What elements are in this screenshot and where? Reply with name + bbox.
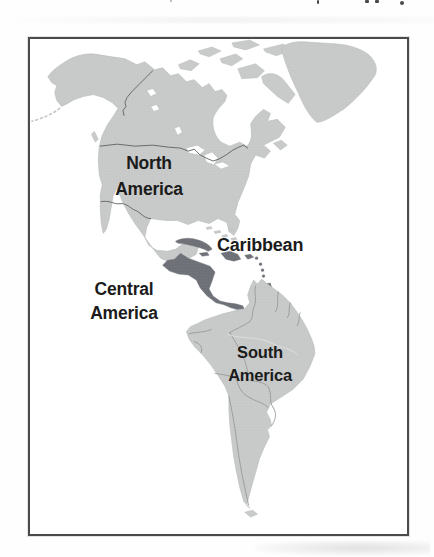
jamaica [199, 252, 209, 256]
vancouver-island [91, 131, 98, 142]
tierra-del-fuego [245, 510, 258, 517]
page-text-remnant [365, 0, 369, 3]
label-north-america: North America [115, 150, 183, 202]
page-text-remnant [375, 0, 379, 3]
americas-map [30, 39, 407, 534]
newfoundland-island [273, 140, 287, 150]
label-central-america-line2: America [90, 301, 158, 325]
page-text-remnant [170, 0, 172, 2]
label-central-america-line1: Central [90, 277, 158, 301]
label-south-america: South America [228, 341, 292, 387]
label-south-america-line2: America [228, 364, 292, 387]
greenland-landmass [281, 42, 376, 123]
label-north-america-line2: America [115, 176, 183, 202]
page-text-remnant [317, 0, 319, 4]
page-text-remnant [400, 1, 404, 5]
lesser-antilles [255, 257, 265, 284]
label-south-america-line1: South [228, 341, 292, 364]
label-central-america: Central America [90, 277, 158, 325]
scan-noise-smudge [255, 540, 430, 556]
central-america-highlight [163, 253, 245, 310]
label-north-america-line1: North [115, 150, 183, 176]
map-figure-frame: North America Caribbean Central America … [28, 37, 409, 536]
scan-noise-streak [0, 17, 434, 23]
label-caribbean: Caribbean [217, 235, 303, 256]
aleutian-islands [32, 108, 60, 121]
